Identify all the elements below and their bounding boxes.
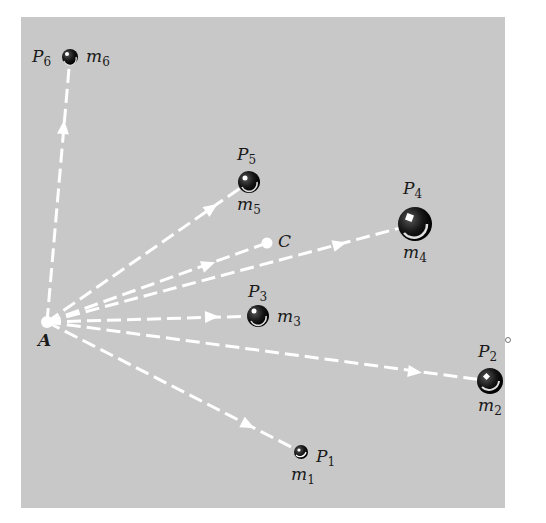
mass-P4	[398, 207, 432, 241]
label-A: A	[36, 330, 51, 350]
arrow-icon	[407, 365, 422, 379]
arrow-icon	[239, 417, 257, 434]
label-m4: m4	[403, 242, 427, 265]
vector-A-P4	[47, 224, 415, 322]
label-P2: P2	[477, 341, 497, 364]
mass-position-diagram: A C P1 m1 P2 m2 P3 m3 P4 m4 P5 m5 P6 m6	[0, 0, 546, 523]
label-m1: m1	[291, 464, 315, 487]
arrow-icon	[205, 311, 219, 323]
label-P4: P4	[402, 178, 422, 201]
vector-A-P3	[47, 316, 258, 322]
label-P3: P3	[247, 281, 267, 304]
arrow-icon	[200, 257, 217, 273]
label-P6: P6	[31, 46, 51, 69]
mass-P5	[238, 171, 260, 193]
vector-A-P1	[47, 322, 301, 452]
vector-A-P6	[47, 57, 70, 322]
label-m2: m2	[478, 395, 502, 418]
label-P1: P1	[315, 446, 335, 469]
label-P5: P5	[236, 144, 256, 167]
mass-P1	[294, 445, 308, 459]
vector-A-P5	[47, 182, 249, 322]
small-ring-mark	[506, 338, 511, 343]
center-of-mass-C	[262, 238, 273, 249]
label-C: C	[278, 231, 291, 251]
arrow-icon	[331, 237, 348, 252]
mass-P6	[62, 49, 78, 65]
label-m3: m3	[277, 306, 301, 329]
mass-P3	[247, 305, 269, 327]
arrow-icon	[57, 120, 70, 135]
arrowheads	[57, 120, 423, 434]
mass-P2	[477, 368, 503, 394]
vector-A-P2	[47, 322, 490, 381]
vector-A-C	[47, 243, 267, 322]
label-m6: m6	[86, 46, 110, 69]
label-m5: m5	[237, 194, 261, 217]
masses	[62, 49, 503, 459]
origin-point-A	[41, 316, 53, 328]
